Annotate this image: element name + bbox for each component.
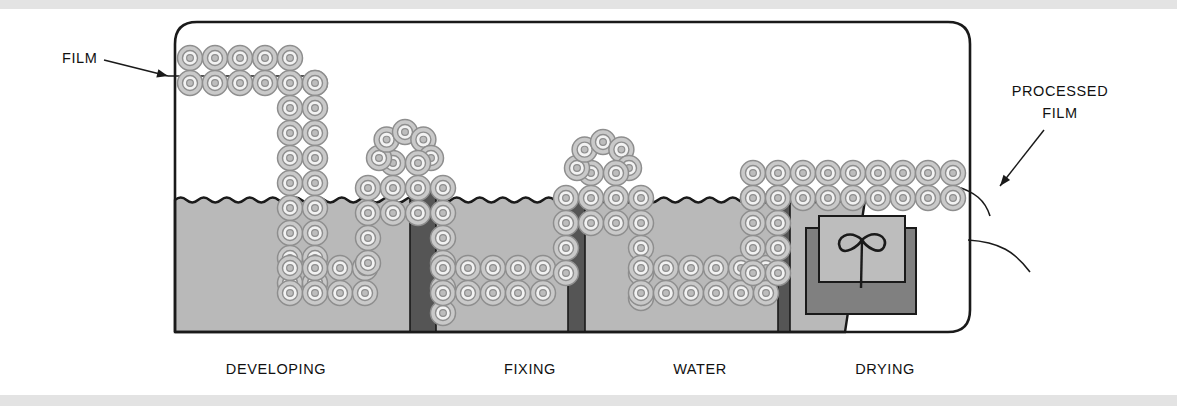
arch1-up-outer-1: [356, 201, 381, 226]
dev-bottom-lower-3: [353, 281, 378, 306]
arch1-dn-outer-2: [431, 226, 456, 251]
exit-top-row-8: [941, 161, 966, 186]
stage-label-layer: DEVELOPINGFIXINGWATERDRYING: [226, 361, 915, 377]
dev-down-right-3: [303, 146, 328, 171]
arch1-dn-inner-2: [406, 201, 431, 226]
dev-down-right-0: [303, 71, 328, 96]
entry-bottom-row-0: [178, 71, 203, 96]
wat-rise-outer-1: [741, 211, 766, 236]
wat-bottom-lower-2: [679, 281, 704, 306]
wat-bottom-upper-2: [679, 256, 704, 281]
dryer-unit: [806, 216, 916, 314]
wat-bottom-upper-3: [704, 256, 729, 281]
exit-bottom-row-8: [941, 186, 966, 211]
fix-bottom-upper-4: [531, 256, 556, 281]
stage-label-drying: DRYING: [855, 361, 915, 377]
exit-bottom-row-1: [766, 186, 791, 211]
dev-bottom-upper-2: [328, 256, 353, 281]
dev-down-left-2: [278, 146, 303, 171]
callout-label-processed-film-line2: FILM: [1042, 105, 1077, 121]
exit-bottom-row-4: [841, 186, 866, 211]
callout-arrowhead-processed-film: [1000, 175, 1010, 186]
wat-bottom-lower-1: [654, 281, 679, 306]
arch1-up-outer-3: [356, 251, 381, 276]
exit-bottom-row-0: [741, 186, 766, 211]
arch1-dn-inner-0: [406, 151, 431, 176]
wat-bottom-lower-3: [704, 281, 729, 306]
wat-bottom-upper-0: [629, 256, 654, 281]
exit-bottom-row-5: [866, 186, 891, 211]
entry-bottom-row-1: [203, 71, 228, 96]
fix-bottom-lower-3: [506, 281, 531, 306]
dev-bottom-upper-0: [278, 256, 303, 281]
exit-top-row-6: [891, 161, 916, 186]
dev-down-right-6: [303, 221, 328, 246]
fix-bottom-lower-2: [481, 281, 506, 306]
callout-arrowhead-film-in: [156, 69, 168, 77]
fix-bottom-upper-3: [506, 256, 531, 281]
exit-top-row-3: [816, 161, 841, 186]
arch1-dn-inner-1: [406, 176, 431, 201]
film-processor-diagram: FILMPROCESSEDFILM DEVELOPINGFIXINGWATERD…: [0, 0, 1177, 406]
dev-down-right-1: [303, 96, 328, 121]
exit-bottom-row-7: [916, 186, 941, 211]
stage-label-developing: DEVELOPING: [226, 361, 326, 377]
dev-down-left-0: [278, 96, 303, 121]
entry-top-row-3: [253, 46, 278, 71]
arch2-up-inner-2: [579, 211, 604, 236]
entry-bottom-row-4: [278, 71, 303, 96]
fix-bottom-lower-0: [431, 281, 456, 306]
wat-bottom-upper-1: [654, 256, 679, 281]
arch1-up-inner-1: [381, 176, 406, 201]
arch2-up-outer-3: [554, 261, 579, 286]
exit-top-row-2: [791, 161, 816, 186]
dev-bottom-lower-0: [278, 281, 303, 306]
dev-down-left-1: [278, 121, 303, 146]
stage-label-water: WATER: [673, 361, 727, 377]
exit-bottom-row-3: [816, 186, 841, 211]
dev-down-left-5: [278, 221, 303, 246]
dev-down-left-4: [278, 196, 303, 221]
entry-top-row-4: [278, 46, 303, 71]
arch1-dn-outer-1: [431, 201, 456, 226]
entry-bottom-row-3: [253, 71, 278, 96]
dev-bottom-upper-1: [303, 256, 328, 281]
callout-label-processed-film-line1: PROCESSED: [1012, 83, 1108, 99]
arch2-dn-inner-2: [604, 211, 629, 236]
arch2-dn-outer-1: [629, 211, 654, 236]
dev-down-left-3: [278, 171, 303, 196]
dev-bottom-lower-2: [328, 281, 353, 306]
fix-bottom-upper-1: [456, 256, 481, 281]
entry-top-row-2: [228, 46, 253, 71]
arch2-up-outer-2: [554, 236, 579, 261]
fix-bottom-lower-4: [531, 281, 556, 306]
wat-rise-outer-2: [741, 236, 766, 261]
exit-top-row-0: [741, 161, 766, 186]
diagram-canvas: FILMPROCESSEDFILM DEVELOPINGFIXINGWATERD…: [0, 0, 1177, 406]
dev-down-right-2: [303, 121, 328, 146]
exit-bottom-row-6: [891, 186, 916, 211]
fix-bottom-lower-1: [456, 281, 481, 306]
exit-top-row-4: [841, 161, 866, 186]
arch2-dn-outer-0: [629, 186, 654, 211]
dev-bottom-lower-1: [303, 281, 328, 306]
entry-top-row-1: [203, 46, 228, 71]
arch2-up-outer-0: [554, 186, 579, 211]
entry-top-row-0: [178, 46, 203, 71]
wat-rise-inner-1: [766, 211, 791, 236]
dev-down-right-5: [303, 196, 328, 221]
wat-rise-outer-3: [741, 261, 766, 286]
wat-bottom-lower-0: [629, 281, 654, 306]
exit-curve-lower: [968, 240, 1030, 272]
arch2-dn-inner-1: [604, 186, 629, 211]
arch1-dn-outer-0: [431, 176, 456, 201]
exit-top-row-7: [916, 161, 941, 186]
exit-top-row-5: [866, 161, 891, 186]
callout-label-film-in: FILM: [62, 50, 97, 66]
stage-label-fixing: FIXING: [504, 361, 556, 377]
dev-down-right-4: [303, 171, 328, 196]
arch2-up-outer-1: [554, 211, 579, 236]
wat-rise-inner-2: [766, 236, 791, 261]
entry-bottom-row-2: [228, 71, 253, 96]
dryer-fan-stem: [861, 240, 862, 288]
